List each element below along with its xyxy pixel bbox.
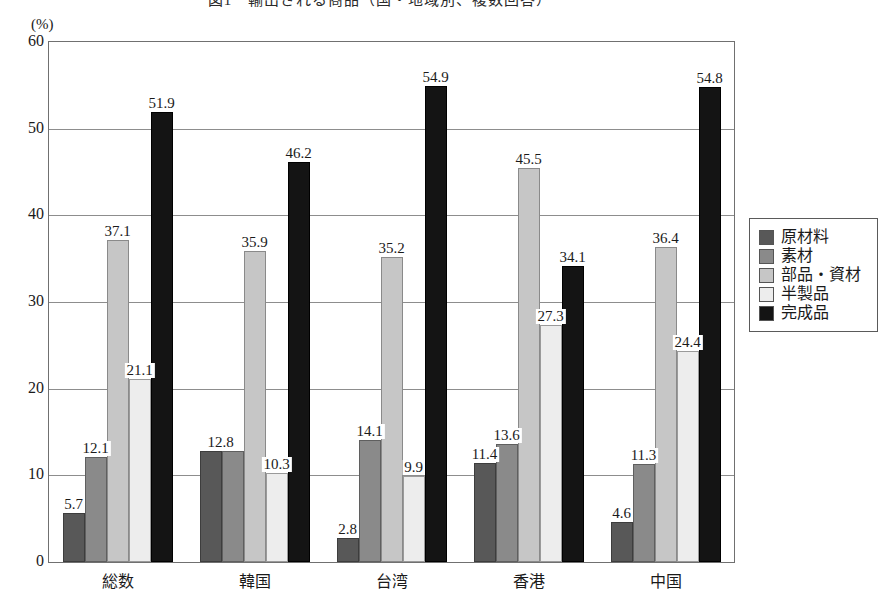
legend-swatch-icon	[759, 287, 774, 302]
legend-swatch-icon	[759, 230, 774, 245]
legend-item-0[interactable]: 原材料	[759, 229, 869, 245]
y-axis-tick: 40	[6, 205, 44, 223]
x-axis-label-3: 香港	[460, 568, 597, 592]
chart-title: 図1 輸出される商品（国・地域別、複数回答）	[0, 0, 760, 9]
legend-item-3[interactable]: 半製品	[759, 286, 869, 302]
bar-value-label: 11.4	[470, 447, 500, 462]
bar[interactable]: 27.3	[540, 325, 562, 562]
bar-value-label: 4.6	[610, 506, 633, 521]
bar-value-label: 5.7	[62, 497, 85, 512]
y-axis-unit-label: (%)	[31, 16, 54, 33]
bar[interactable]: 54.9	[425, 86, 447, 562]
bar[interactable]: 11.4	[474, 463, 496, 562]
bar[interactable]: 35.9	[244, 251, 266, 562]
bar-value-label: 34.1	[557, 250, 587, 265]
bar[interactable]: 36.4	[655, 247, 677, 562]
legend-label: 半製品	[781, 286, 829, 302]
bar-value-label: 35.9	[239, 235, 269, 250]
y-axis-tick: 60	[6, 32, 44, 50]
bar-value-label: 27.3	[535, 309, 565, 324]
bar[interactable]: 5.7	[63, 513, 85, 562]
bar[interactable]: 45.5	[518, 168, 540, 562]
bar[interactable]: 51.9	[151, 112, 173, 562]
bar-group: 11.413.645.527.334.1	[460, 42, 597, 562]
y-axis-tick: 30	[6, 292, 44, 310]
bar[interactable]: 37.1	[107, 240, 129, 562]
bar-value-label: 2.8	[336, 522, 359, 537]
bar-value-label: 54.9	[420, 70, 450, 85]
legend-label: 原材料	[781, 229, 829, 245]
bar-value-label: 24.4	[672, 335, 702, 350]
bar-value-label: 14.1	[354, 424, 384, 439]
x-axis-label-1: 韓国	[186, 568, 323, 592]
legend-label: 部品・資材	[781, 267, 861, 283]
bar[interactable]: 24.4	[677, 351, 699, 562]
legend-item-4[interactable]: 完成品	[759, 305, 869, 321]
bar[interactable]: 21.1	[129, 379, 151, 562]
legend-label: 素材	[781, 248, 813, 264]
y-axis-tick: 10	[6, 465, 44, 483]
bar[interactable]: 54.8	[699, 87, 721, 562]
bar-value-label: 12.1	[80, 441, 110, 456]
bar-value-label: 45.5	[513, 152, 543, 167]
bar-value-label: 37.1	[102, 224, 132, 239]
legend-swatch-icon	[759, 249, 774, 264]
bar[interactable]: 12.1	[85, 457, 107, 562]
y-axis-tick: 50	[6, 119, 44, 137]
bar-value-label: 54.8	[694, 71, 724, 86]
x-axis-label-2: 台湾	[323, 568, 460, 592]
bar-value-label: 46.2	[283, 146, 313, 161]
bar-value-label: 12.8	[205, 435, 235, 450]
legend-swatch-icon	[759, 306, 774, 321]
bar[interactable]: 4.6	[611, 522, 633, 562]
legend-swatch-icon	[759, 268, 774, 283]
bar[interactable]: 46.2	[288, 162, 310, 562]
chart-root: 図1 輸出される商品（国・地域別、複数回答） (%) 0102030405060…	[0, 0, 887, 601]
bar-value-label: 35.2	[376, 241, 406, 256]
chart-legend: 原材料素材部品・資材半製品完成品	[749, 218, 878, 332]
bar[interactable]: 11.3	[633, 464, 655, 562]
x-axis-label-0: 総数	[49, 568, 186, 592]
bar[interactable]: 2.8	[337, 538, 359, 562]
bar-groups: 5.712.137.121.151.912.835.910.346.22.814…	[49, 42, 734, 562]
bar-value-label: 11.3	[629, 448, 659, 463]
bar-value-label: 9.9	[402, 460, 425, 475]
bar-group: 12.835.910.346.2	[186, 42, 323, 562]
bar[interactable]: 10.3	[266, 473, 288, 562]
bar-value-label: 51.9	[146, 96, 176, 111]
bar-value-label: 21.1	[124, 363, 154, 378]
y-axis-tick: 20	[6, 379, 44, 397]
y-axis-tick: 0	[6, 552, 44, 570]
legend-item-2[interactable]: 部品・資材	[759, 267, 869, 283]
bar-value-label: 36.4	[650, 231, 680, 246]
bar-value-label: 10.3	[261, 457, 291, 472]
bar[interactable]	[222, 451, 244, 562]
bar-group: 5.712.137.121.151.9	[49, 42, 186, 562]
bar-value-label: 13.6	[491, 428, 521, 443]
x-axis-category-labels: 総数韓国台湾香港中国	[49, 568, 734, 592]
x-axis-label-4: 中国	[597, 568, 734, 592]
y-axis-tick-labels: 0102030405060	[0, 41, 44, 563]
bar-group: 2.814.135.29.954.9	[323, 42, 460, 562]
legend-label: 完成品	[781, 305, 829, 321]
bar[interactable]: 9.9	[403, 476, 425, 562]
bar[interactable]: 14.1	[359, 440, 381, 562]
bar[interactable]: 35.2	[381, 257, 403, 562]
bar-group: 4.611.336.424.454.8	[597, 42, 734, 562]
bar[interactable]: 12.8	[200, 451, 222, 562]
legend-item-1[interactable]: 素材	[759, 248, 869, 264]
